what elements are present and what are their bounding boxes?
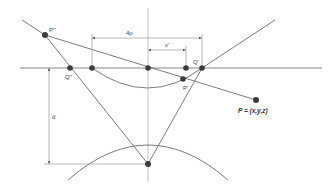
label-x-prime: x' [165, 42, 169, 48]
label-p-prime: P' [183, 85, 188, 91]
line-focus-to-q-prime [148, 68, 202, 164]
line-pdd-extended [22, 20, 45, 35]
line-pdd-to-focus [45, 35, 148, 164]
arrow-d-bottom [48, 161, 50, 164]
point-axis-right [199, 65, 205, 71]
geometry-diagram: P'' Q'' Q' P' P = (x,y,z) 4p x' d [0, 0, 335, 189]
label-p-double-prime: P'' [49, 27, 55, 33]
label-d: d [52, 114, 55, 120]
line-q-prime-ray [202, 20, 275, 68]
arrow-x-right [183, 49, 186, 51]
label-q-double-prime: Q'' [65, 74, 72, 80]
point-p-double-prime [42, 32, 48, 38]
label-q-prime: Q' [193, 59, 199, 65]
point-q-prime [183, 65, 189, 71]
point-q-double-prime [67, 65, 73, 71]
point-axis-center [145, 65, 151, 71]
label-4p: 4p [126, 30, 133, 36]
arrow-4p-left [92, 37, 95, 39]
point-focus [145, 161, 151, 167]
point-axis-left [89, 65, 95, 71]
point-p-prime [180, 76, 186, 82]
point-p [253, 97, 259, 103]
arrow-4p-right [199, 37, 202, 39]
label-point-p: P = (x,y,z) [238, 107, 268, 115]
